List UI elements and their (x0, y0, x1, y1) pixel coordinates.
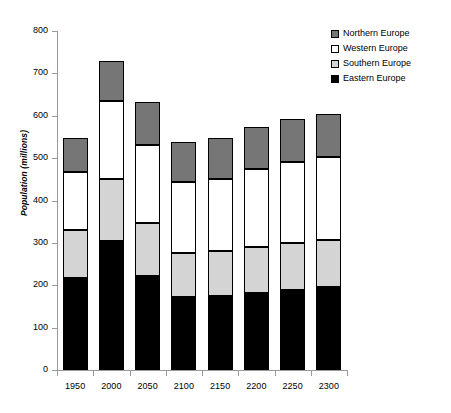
bar-segment (99, 61, 124, 101)
bar-segment (63, 278, 88, 370)
bar-segment (244, 247, 269, 293)
legend-item-label: Northern Europe (343, 28, 410, 39)
y-axis-title: Population (millions) (19, 93, 29, 253)
x-axis-tick-label: 2100 (164, 381, 204, 392)
bar-segment (280, 243, 305, 290)
bar-segment (99, 179, 124, 240)
x-axis-tick-mark (166, 371, 167, 376)
y-axis-tick-label: 200 (33, 279, 48, 290)
y-axis-tick: 700 (0, 73, 57, 74)
x-axis-tick-mark (130, 371, 131, 376)
y-axis-tick: 200 (0, 285, 57, 286)
x-axis-tick-label: 2250 (273, 381, 313, 392)
y-axis-tick-label: 500 (33, 152, 48, 163)
y-axis-tick: 100 (0, 328, 57, 329)
plot-area (57, 31, 347, 370)
bar-segment (171, 182, 196, 253)
x-axis-tick-mark (93, 371, 94, 376)
x-axis-tick-label: 2000 (91, 381, 131, 392)
x-axis-tick-mark (202, 371, 203, 376)
bar-segment (135, 145, 160, 223)
bar-segment (63, 230, 88, 277)
legend-item: Southern Europe (331, 56, 447, 71)
bar-segment (316, 114, 341, 156)
bar-stack (63, 31, 88, 370)
bar-segment (316, 157, 341, 240)
y-axis-tick: 800 (0, 31, 57, 32)
bar-segment (244, 169, 269, 247)
stacked-bar-chart: Population (millions) 010020030040050060… (0, 0, 451, 413)
y-axis-tick-label: 700 (33, 67, 48, 78)
y-axis-tick-label: 400 (33, 195, 48, 206)
bar-stack (244, 31, 269, 370)
legend-item-label: Western Europe (343, 43, 408, 54)
bar-segment (208, 138, 233, 180)
bar-segment (208, 179, 233, 251)
bar-stack (208, 31, 233, 370)
x-axis-tick-mark (347, 371, 348, 376)
bar-stack (280, 31, 305, 370)
bar-segment (135, 276, 160, 370)
y-axis-tick: 400 (0, 201, 57, 202)
y-axis-tick-label: 0 (43, 364, 48, 375)
y-axis-tick-label: 100 (33, 322, 48, 333)
bar-segment (244, 293, 269, 370)
y-axis-tick-label: 600 (33, 110, 48, 121)
bar-stack (171, 31, 196, 370)
legend-item-label: Eastern Europe (343, 73, 406, 84)
legend-swatch-icon (331, 60, 339, 68)
x-axis-tick-mark (238, 371, 239, 376)
x-axis-tick-mark (311, 371, 312, 376)
bar-segment (280, 290, 305, 371)
legend-item: Eastern Europe (331, 71, 447, 86)
bar-segment (99, 101, 124, 179)
bar-segment (171, 297, 196, 370)
bar-segment (171, 253, 196, 297)
bar-segment (316, 240, 341, 287)
legend-swatch-icon (331, 75, 339, 83)
bar-segment (244, 127, 269, 169)
legend-item: Western Europe (331, 41, 447, 56)
x-axis-tick-mark (57, 371, 58, 376)
bar-segment (135, 223, 160, 276)
x-axis-tick-label: 1950 (55, 381, 95, 392)
bar-segment (208, 296, 233, 370)
bar-segment (171, 142, 196, 182)
bar-segment (63, 138, 88, 172)
legend-item: Northern Europe (331, 26, 447, 41)
bar-stack (99, 31, 124, 370)
legend-item-label: Southern Europe (343, 58, 411, 69)
y-axis-tick: 500 (0, 158, 57, 159)
y-axis-tick-label: 800 (33, 25, 48, 36)
legend-swatch-icon (331, 30, 339, 38)
bar-segment (63, 172, 88, 230)
bar-segment (99, 241, 124, 370)
y-axis-tick-label: 300 (33, 237, 48, 248)
bar-segment (135, 102, 160, 145)
legend-swatch-icon (331, 45, 339, 53)
x-axis-tick-label: 2150 (200, 381, 240, 392)
y-axis-tick: 600 (0, 116, 57, 117)
x-axis-tick-label: 2300 (309, 381, 349, 392)
bar-segment (280, 119, 305, 162)
y-axis-tick: 0 (0, 370, 57, 371)
x-axis-tick-label: 2200 (236, 381, 276, 392)
bar-segment (280, 162, 305, 243)
bar-segment (316, 287, 341, 370)
chart-legend: Northern EuropeWestern EuropeSouthern Eu… (331, 26, 447, 86)
bar-segment (208, 251, 233, 295)
y-axis-tick: 300 (0, 243, 57, 244)
bar-stack (135, 31, 160, 370)
x-axis-tick-mark (275, 371, 276, 376)
x-axis-tick-label: 2050 (128, 381, 168, 392)
